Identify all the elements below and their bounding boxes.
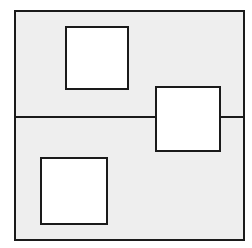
top-square	[66, 27, 128, 89]
geometric-figure	[0, 0, 252, 248]
figure-canvas	[0, 0, 252, 248]
middle-right-square-overlay	[156, 87, 220, 151]
bottom-left-square	[41, 158, 107, 224]
